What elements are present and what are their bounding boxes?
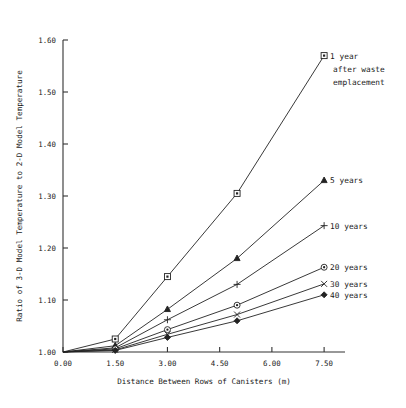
- marker-square-core: [236, 192, 238, 194]
- x-tick-label: 6.00: [263, 359, 281, 368]
- series-line: [63, 284, 324, 352]
- x-tick-label: 7.50: [315, 359, 333, 368]
- legend-label: 40 years: [330, 291, 368, 300]
- legend-label: 1 year: [330, 52, 358, 61]
- chart-figure: 0.001.503.004.506.007.501.001.101.201.30…: [0, 0, 406, 408]
- marker-square-core: [323, 55, 325, 57]
- marker-circle-core: [236, 304, 238, 306]
- legend-label: 10 years: [330, 222, 368, 231]
- y-tick-label: 1.10: [38, 296, 56, 305]
- series-line: [63, 180, 324, 352]
- x-tick-label: 3.00: [159, 359, 177, 368]
- marker-diamond: [234, 318, 240, 324]
- series-line: [63, 56, 324, 352]
- series-line: [63, 226, 324, 352]
- series-line: [63, 295, 324, 352]
- x-tick-label: 1.50: [106, 359, 124, 368]
- legend-label: 30 years: [330, 280, 368, 289]
- marker-circle-core: [166, 328, 168, 330]
- marker-circle-core: [323, 266, 325, 268]
- marker-square-core: [166, 276, 168, 278]
- legend-label: 5 years: [330, 176, 363, 185]
- y-tick-label: 1.20: [38, 244, 56, 253]
- y-tick-label: 1.30: [38, 192, 56, 201]
- marker-triangle: [164, 306, 170, 312]
- marker-square-core: [114, 338, 116, 340]
- y-tick-label: 1.60: [38, 36, 56, 45]
- y-tick-label: 1.00: [38, 348, 56, 357]
- series-line: [63, 267, 324, 352]
- legend-label: emplacement: [333, 78, 385, 87]
- y-axis-title: Ratio of 3-D Model Temperature to 2-D Mo…: [15, 70, 24, 322]
- marker-triangle: [234, 255, 240, 261]
- marker-diamond: [321, 292, 327, 298]
- legend-label: 20 years: [330, 263, 368, 272]
- chart-svg: 0.001.503.004.506.007.501.001.101.201.30…: [0, 0, 406, 408]
- x-axis-title: Distance Between Rows of Canisters (m): [117, 377, 291, 386]
- axis-frame: [63, 40, 345, 352]
- x-tick-label: 0.00: [54, 359, 72, 368]
- x-tick-label: 4.50: [211, 359, 229, 368]
- y-tick-label: 1.50: [38, 88, 56, 97]
- legend-label: after waste: [333, 65, 385, 74]
- marker-triangle: [321, 177, 327, 183]
- y-tick-label: 1.40: [38, 140, 56, 149]
